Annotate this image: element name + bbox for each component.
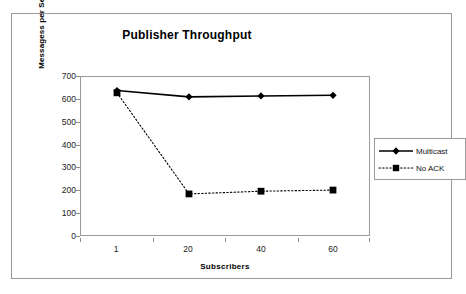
x-tick-label-1: 1: [96, 244, 136, 254]
legend-line-diamond-icon: [378, 145, 414, 157]
y-tick-mark: [76, 236, 80, 237]
series-svg: [81, 77, 369, 235]
data-point: [330, 187, 337, 194]
y-tick-label-700: 700: [50, 71, 76, 81]
data-point: [257, 92, 264, 99]
x-tick-label-40: 40: [241, 244, 281, 254]
series-line-no-ack: [117, 93, 333, 194]
x-tick-mark: [369, 238, 370, 242]
x-tick-mark: [298, 238, 299, 242]
x-tick-label-20: 20: [168, 244, 208, 254]
data-point: [258, 188, 265, 195]
data-point: [186, 191, 193, 198]
y-axis-ticks: 700 600 500 400 300 200 100 0: [42, 76, 76, 236]
chart-legend: Multicast No ACK: [374, 138, 466, 180]
y-tick-label-600: 600: [50, 94, 76, 104]
y-tick-label-0: 0: [50, 231, 76, 241]
y-tick-label-200: 200: [50, 185, 76, 195]
legend-label-multicast: Multicast: [414, 147, 448, 156]
x-axis-title: Subscribers: [80, 262, 370, 271]
y-tick-label-400: 400: [50, 140, 76, 150]
chart-frame: Publisher Throughput Messagess per Secon…: [11, 13, 452, 279]
x-axis-ticks: 1 20 40 60: [80, 238, 370, 258]
chart-title: Publisher Throughput: [12, 28, 362, 42]
series-line-multicast: [117, 91, 333, 97]
legend-item-no-ack[interactable]: No ACK: [378, 160, 464, 176]
legend-line-square-icon: [378, 162, 414, 174]
x-tick-mark: [153, 238, 154, 242]
legend-label-no-ack: No ACK: [414, 164, 444, 173]
legend-item-multicast[interactable]: Multicast: [378, 143, 464, 159]
y-tick-label-500: 500: [50, 117, 76, 127]
data-point: [185, 93, 192, 100]
y-tick-label-300: 300: [50, 162, 76, 172]
y-tick-label-100: 100: [50, 208, 76, 218]
x-tick-label-60: 60: [313, 244, 353, 254]
x-tick-mark: [80, 238, 81, 242]
series-markers-no-ack: [114, 89, 337, 197]
x-tick-mark: [225, 238, 226, 242]
plot-area: [80, 76, 370, 236]
data-point: [329, 92, 336, 99]
